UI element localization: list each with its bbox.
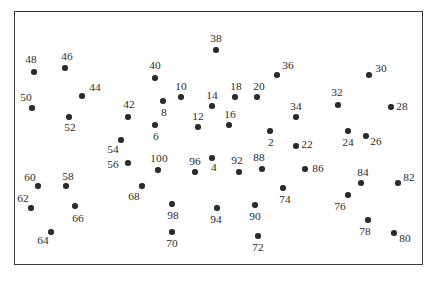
scatter-point-38[interactable] (213, 47, 218, 52)
scatter-point-label-38: 38 (210, 33, 222, 44)
scatter-point-24[interactable] (345, 128, 350, 133)
scatter-point-84[interactable] (358, 180, 363, 185)
scatter-point-72[interactable] (255, 233, 260, 238)
scatter-point-80[interactable] (391, 230, 396, 235)
scatter-point-42[interactable] (125, 114, 130, 119)
scatter-point-label-96: 96 (189, 156, 201, 167)
scatter-point-label-20: 20 (253, 81, 265, 92)
scatter-point-22[interactable] (293, 143, 298, 148)
scatter-point-14[interactable] (209, 103, 214, 108)
scatter-point-26[interactable] (363, 133, 368, 138)
scatter-point-label-98: 98 (167, 210, 179, 221)
scatter-point-label-56: 56 (107, 159, 119, 170)
scatter-point-label-84: 84 (357, 167, 369, 178)
scatter-point-6[interactable] (152, 122, 157, 127)
scatter-point-16[interactable] (226, 122, 231, 127)
scatter-point-label-66: 66 (72, 213, 84, 224)
scatter-point-12[interactable] (195, 124, 200, 129)
scatter-point-62[interactable] (28, 205, 33, 210)
scatter-point-50[interactable] (29, 105, 34, 110)
scatter-point-34[interactable] (293, 114, 298, 119)
scatter-point-label-22: 22 (301, 139, 313, 150)
scatter-point-label-86: 86 (312, 163, 324, 174)
scatter-point-label-74: 74 (279, 194, 291, 205)
scatter-point-94[interactable] (214, 205, 219, 210)
scatter-point-4[interactable] (209, 155, 214, 160)
scatter-point-label-18: 18 (230, 81, 242, 92)
scatter-point-label-78: 78 (359, 226, 371, 237)
scatter-point-label-14: 14 (206, 90, 218, 101)
scatter-point-label-8: 8 (161, 107, 167, 118)
scatter-point-label-4: 4 (211, 162, 217, 173)
scatter-point-label-62: 62 (17, 193, 29, 204)
scatter-point-28[interactable] (388, 104, 393, 109)
scatter-point-48[interactable] (31, 69, 36, 74)
scatter-point-label-54: 54 (107, 144, 119, 155)
scatter-point-label-94: 94 (210, 214, 222, 225)
scatter-point-label-48: 48 (25, 54, 37, 65)
scatter-point-46[interactable] (62, 65, 67, 70)
scatter-point-52[interactable] (66, 114, 71, 119)
scatter-point-label-82: 82 (403, 172, 415, 183)
scatter-point-label-92: 92 (231, 155, 243, 166)
scatter-point-label-24: 24 (342, 137, 354, 148)
scatter-point-60[interactable] (35, 183, 40, 188)
scatter-point-label-10: 10 (175, 81, 187, 92)
scatter-point-label-72: 72 (252, 242, 264, 253)
scatter-point-2[interactable] (267, 128, 272, 133)
scatter-point-label-44: 44 (89, 82, 101, 93)
scatter-point-74[interactable] (280, 185, 285, 190)
scatter-point-82[interactable] (395, 180, 400, 185)
scatter-point-label-64: 64 (37, 235, 49, 246)
scatter-point-label-58: 58 (62, 171, 74, 182)
scatter-point-label-50: 50 (20, 92, 32, 103)
scatter-point-label-52: 52 (64, 122, 76, 133)
scatter-point-label-16: 16 (224, 109, 236, 120)
scatter-point-label-100: 100 (150, 153, 167, 164)
scatter-point-58[interactable] (63, 183, 68, 188)
scatter-point-18[interactable] (232, 94, 237, 99)
scatter-point-label-68: 68 (128, 191, 140, 202)
scatter-point-66[interactable] (72, 203, 77, 208)
scatter-point-label-70: 70 (166, 238, 178, 249)
scatter-point-label-46: 46 (61, 51, 73, 62)
scatter-point-label-12: 12 (192, 111, 204, 122)
scatter-point-label-26: 26 (370, 136, 382, 147)
scatter-point-label-6: 6 (153, 131, 159, 142)
scatter-point-label-36: 36 (282, 60, 294, 71)
scatter-point-88[interactable] (259, 166, 264, 171)
scatter-figure: 4846504452424086101214161820383634303228… (0, 0, 438, 292)
scatter-point-36[interactable] (274, 72, 279, 77)
scatter-point-20[interactable] (254, 94, 259, 99)
scatter-point-96[interactable] (192, 169, 197, 174)
scatter-point-54[interactable] (118, 137, 123, 142)
scatter-point-label-30: 30 (375, 63, 387, 74)
scatter-point-8[interactable] (160, 98, 165, 103)
scatter-point-32[interactable] (335, 102, 340, 107)
scatter-point-30[interactable] (366, 72, 371, 77)
scatter-point-10[interactable] (178, 94, 183, 99)
scatter-point-90[interactable] (252, 202, 257, 207)
scatter-point-label-90: 90 (249, 211, 261, 222)
scatter-point-label-76: 76 (334, 201, 346, 212)
scatter-point-label-28: 28 (396, 101, 408, 112)
scatter-point-100[interactable] (155, 167, 160, 172)
scatter-point-label-40: 40 (149, 60, 161, 71)
scatter-point-68[interactable] (139, 183, 144, 188)
scatter-point-label-32: 32 (331, 87, 343, 98)
scatter-point-98[interactable] (169, 201, 174, 206)
scatter-point-label-80: 80 (399, 233, 411, 244)
scatter-point-92[interactable] (236, 169, 241, 174)
scatter-point-label-42: 42 (123, 99, 135, 110)
scatter-point-78[interactable] (365, 217, 370, 222)
scatter-point-44[interactable] (79, 93, 84, 98)
scatter-point-label-34: 34 (290, 101, 302, 112)
scatter-point-40[interactable] (152, 75, 157, 80)
scatter-point-76[interactable] (345, 192, 350, 197)
scatter-point-label-2: 2 (268, 137, 274, 148)
scatter-point-86[interactable] (302, 166, 307, 171)
scatter-point-70[interactable] (169, 229, 174, 234)
scatter-point-56[interactable] (125, 160, 130, 165)
scatter-point-label-60: 60 (24, 172, 36, 183)
scatter-point-label-88: 88 (253, 152, 265, 163)
